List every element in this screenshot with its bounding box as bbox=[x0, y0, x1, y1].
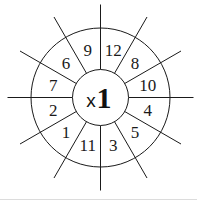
segment-number: 12 bbox=[105, 41, 122, 60]
center-operator: x bbox=[86, 90, 96, 111]
segment-number: 2 bbox=[49, 101, 58, 120]
segment-number: 6 bbox=[62, 54, 71, 73]
segment-number: 4 bbox=[144, 101, 153, 120]
segment-number: 11 bbox=[80, 136, 96, 155]
segment-number: 7 bbox=[49, 76, 58, 95]
spoke-line bbox=[54, 17, 87, 73]
bottom-divider bbox=[0, 199, 197, 200]
center-multiplier: 1 bbox=[97, 81, 112, 114]
segment-number: 8 bbox=[131, 54, 140, 73]
times-table-wheel: 128104531112769 x 1 bbox=[0, 0, 197, 201]
segment-number: 5 bbox=[131, 123, 140, 142]
segment-number: 1 bbox=[62, 123, 71, 142]
segment-number: 3 bbox=[109, 136, 118, 155]
segment-number: 9 bbox=[84, 41, 93, 60]
segment-number: 10 bbox=[139, 76, 156, 95]
